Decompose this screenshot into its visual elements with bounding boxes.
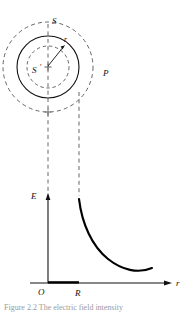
y-axis-label-E: E [30, 191, 37, 201]
figure-svg: S S ′ P r E r O R [0, 0, 188, 316]
x-axis-label-r: r [176, 278, 180, 288]
figure-container: S S ′ P r E r O R Figure 2.2 The e [0, 0, 188, 316]
label-inner-surface-S-prime: S [32, 65, 37, 75]
x-axis-arrowhead [164, 280, 172, 285]
y-axis-arrowhead [46, 193, 51, 200]
field-intensity-graph: E r O R [30, 191, 180, 298]
label-radius-r: r [64, 35, 67, 44]
origin-label-O: O [38, 287, 45, 297]
gaussian-surface-diagram: S S ′ P r [3, 16, 109, 196]
label-inner-surface-prime-tick: ′ [40, 63, 42, 72]
field-decay-curve [79, 199, 152, 271]
label-outer-surface-S: S [52, 16, 57, 26]
figure-caption: Figure 2.2 The electric field intensity [4, 303, 186, 313]
x-tick-label-R: R [74, 288, 81, 298]
radius-arrow [48, 46, 65, 67]
label-point-P: P [102, 68, 109, 78]
